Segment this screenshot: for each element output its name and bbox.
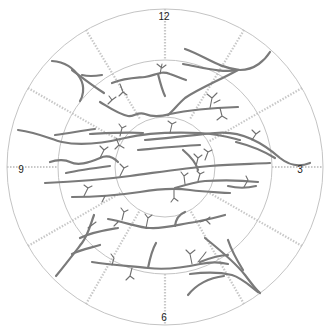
vessel: [90, 133, 143, 134]
vessel: [158, 74, 165, 96]
vessel: [80, 228, 118, 238]
vessel: [100, 102, 238, 116]
vessel-branch: [168, 121, 176, 133]
vessel-branch: [108, 96, 116, 104]
vessel-branch: [119, 124, 126, 136]
hour-label-3: 3: [297, 165, 303, 175]
spoke-4: [208, 192, 302, 246]
vessel: [72, 70, 104, 93]
vessel-branch: [181, 172, 188, 184]
vessel-branch: [204, 149, 212, 160]
clock-spokes: [7, 9, 323, 325]
middle-ring: [58, 60, 272, 274]
vessel-branch: [252, 130, 260, 140]
vessel-branch: [197, 171, 204, 181]
vessel: [200, 255, 228, 262]
spoke-1: [190, 30, 244, 119]
vessel-branch: [171, 190, 178, 202]
vessel-branch: [186, 250, 195, 264]
vessel-branch: [145, 214, 152, 228]
vessel-branch: [84, 185, 92, 196]
hour-label-9: 9: [18, 165, 24, 175]
vessel: [50, 156, 118, 164]
vessel: [112, 73, 186, 83]
vessel: [52, 61, 83, 101]
vessel: [148, 243, 156, 268]
vessel: [66, 166, 110, 173]
vessel: [138, 145, 200, 150]
spoke-11: [86, 30, 140, 119]
vessel-branch: [217, 108, 227, 120]
vessel-branch: [114, 222, 118, 226]
vessel-branch: [126, 268, 134, 280]
clock-diagram: [0, 0, 325, 334]
vessel: [82, 75, 102, 76]
vessel-branch: [207, 93, 220, 108]
vessel-branch: [121, 208, 128, 220]
vessel: [228, 186, 256, 188]
hour-label-12: 12: [158, 12, 169, 22]
vessel-network: [18, 49, 310, 295]
vessel: [188, 276, 224, 295]
hour-label-6: 6: [161, 313, 167, 323]
vessel-branch: [120, 164, 128, 176]
